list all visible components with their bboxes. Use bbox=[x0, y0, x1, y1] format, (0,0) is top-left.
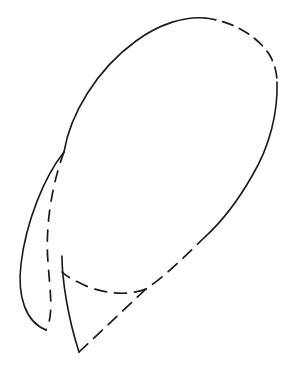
ellipse-right-solid-arc bbox=[206, 82, 277, 236]
ellipse-upper-left-solid-arc bbox=[64, 18, 205, 152]
ellipse-lower-left-dashed-arc bbox=[146, 236, 206, 289]
wedge-right-dashed-edge bbox=[79, 289, 146, 352]
ellipse-top-right-dashed-arc bbox=[205, 18, 277, 82]
drawing-paths-group bbox=[20, 18, 277, 352]
ellipse-bottom-dashed-arc bbox=[62, 272, 146, 293]
petal-inner-dashed-curve bbox=[46, 152, 64, 330]
wedge-left-solid-edge bbox=[62, 256, 79, 352]
petal-outer-solid-curve bbox=[20, 152, 64, 330]
line-drawing-svg bbox=[0, 0, 298, 372]
figure-canvas bbox=[0, 0, 298, 372]
